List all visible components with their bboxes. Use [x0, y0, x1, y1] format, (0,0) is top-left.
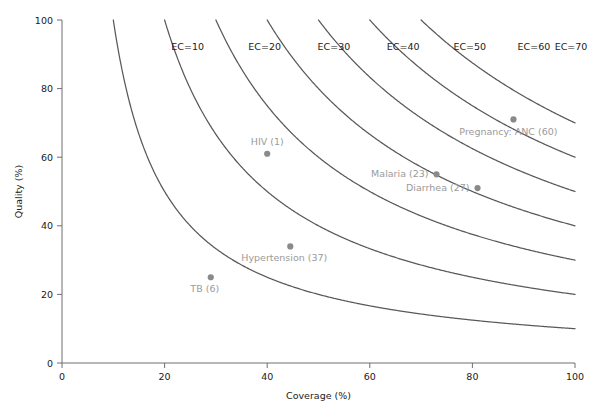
data-point-label: HIV (1) [251, 136, 284, 147]
y-tick-label: 60 [41, 152, 53, 163]
ec-curve-label: EC=60 [518, 41, 551, 52]
axis-titles-group: Coverage (%)Quality (%) [13, 165, 351, 401]
x-tick-label: 100 [566, 371, 584, 382]
y-tick-label: 80 [41, 83, 53, 94]
ec-curve-labels-group: EC=10EC=20EC=30EC=40EC=50EC=60EC=70 [171, 41, 587, 52]
ec-curve-20 [165, 20, 575, 294]
ec-curve-label: EC=20 [248, 41, 281, 52]
data-point[interactable] [287, 243, 293, 249]
ec-curve-70 [421, 20, 575, 123]
x-tick-label: 60 [364, 371, 376, 382]
data-point-label: Malaria (23) [371, 168, 428, 179]
data-point-label: Diarrhea (27) [406, 182, 469, 193]
y-tick-label: 20 [41, 289, 53, 300]
y-tick-label: 100 [35, 15, 53, 26]
ec-curve-label: EC=40 [387, 41, 420, 52]
x-tick-label: 80 [466, 371, 478, 382]
data-point-label: Pregnancy: ANC (60) [459, 126, 557, 137]
y-tick-label: 0 [47, 358, 53, 369]
x-tick-label: 40 [261, 371, 273, 382]
axes-group: 020406080100020406080100 [35, 15, 584, 383]
data-point[interactable] [433, 171, 439, 177]
x-tick-label: 20 [159, 371, 171, 382]
data-points-group: TB (6)HIV (1)Hypertension (37)Malaria (2… [189, 116, 557, 294]
x-axis-title: Coverage (%) [286, 390, 351, 401]
data-point-label: Hypertension (37) [241, 252, 327, 263]
y-axis-title: Quality (%) [13, 165, 24, 218]
efficiency-coverage-quality-chart: EC=10EC=20EC=30EC=40EC=50EC=60EC=70 0204… [0, 0, 600, 406]
ec-curve-10 [113, 20, 575, 329]
x-tick-label: 0 [59, 371, 65, 382]
y-tick-label: 40 [41, 220, 53, 231]
data-point[interactable] [208, 274, 214, 280]
ec-curve-label: EC=10 [171, 41, 204, 52]
data-point[interactable] [264, 151, 270, 157]
ec-curve-label: EC=50 [453, 41, 486, 52]
ec-curve-label: EC=70 [555, 41, 588, 52]
chart-canvas: EC=10EC=20EC=30EC=40EC=50EC=60EC=70 0204… [0, 0, 600, 406]
data-point-label: TB (6) [189, 283, 219, 294]
data-point[interactable] [510, 116, 516, 122]
ec-curve-label: EC=30 [318, 41, 351, 52]
ec-curves-group [113, 20, 575, 329]
data-point[interactable] [474, 185, 480, 191]
